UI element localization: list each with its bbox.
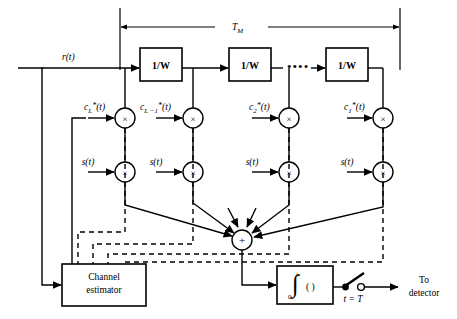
summer-to-integrator [242,250,276,285]
coef-label-2: cL −1*(t) [140,101,171,115]
output-label-line1: To [419,275,429,285]
st-label-4: s(t) [341,157,354,168]
delay-block-2-label: 1/W [241,60,259,71]
junction-dots [41,67,43,69]
sum-input-3 [252,182,289,233]
sum-input-2 [193,182,234,233]
summation-inputs [125,182,383,237]
integrator-group: ∫ t 0 ( ) [277,266,333,304]
delay-block-3-label: 1/W [338,60,356,71]
input-signal-label: r(t) [62,52,75,63]
estimator-label-line1: Channel [88,272,120,282]
st-label-2: s(t) [150,157,163,168]
coef-label-1: cL*(t) [84,101,105,115]
estimator-label-line2: estimator [86,285,122,295]
integrator-lower-limit: 0 [288,293,292,301]
sum-input-dots-left [228,208,238,227]
tm-label: TM [232,22,244,35]
rake-receiver-diagram: TM r(t) 1/W 1/W •••• 1/W × × × × [0,0,457,319]
multiplier-coef-3-symbol: × [286,114,291,124]
coef-label-3: c2*(t) [249,101,270,115]
sampler-group: t = T [333,273,364,304]
summing-junction-group: + [232,230,252,250]
estimator-to-coef-feed [72,118,86,264]
delay-block-1-label: 1/W [152,60,170,71]
st-label-3: s(t) [246,157,259,168]
integrator-block [277,266,333,304]
dashed-feedback-2 [93,128,193,264]
integrator-symbol: ∫ [290,270,300,299]
st-label-1: s(t) [82,157,95,168]
multiplier-coef-4-symbol: × [380,114,385,124]
summer-output-path [242,250,276,285]
multiplier-coef-2-symbol: × [190,114,195,124]
sum-input-dots-right [247,208,256,227]
delay-ellipsis: •••• [287,59,309,74]
output-label-line2: detector [409,288,440,298]
junction-rt-tap [41,67,43,69]
delay-line: 1/W 1/W •••• 1/W [140,48,383,81]
input-signal-path: r(t) [18,52,139,68]
rt-to-estimator [42,68,61,285]
multiplier-coef-1-symbol: × [122,114,127,124]
estimator-feedback-dashed [78,128,383,264]
coef-label-4: c1*(t) [344,101,365,115]
sampler-contact-right [358,284,365,291]
integrator-argument: ( ) [306,282,315,293]
sum-input-1 [125,182,232,236]
detector-output-group: To detector [365,275,440,298]
sum-input-4 [254,182,383,237]
summer-plus-symbol: + [239,234,245,246]
sampler-label: t = T [343,294,363,304]
